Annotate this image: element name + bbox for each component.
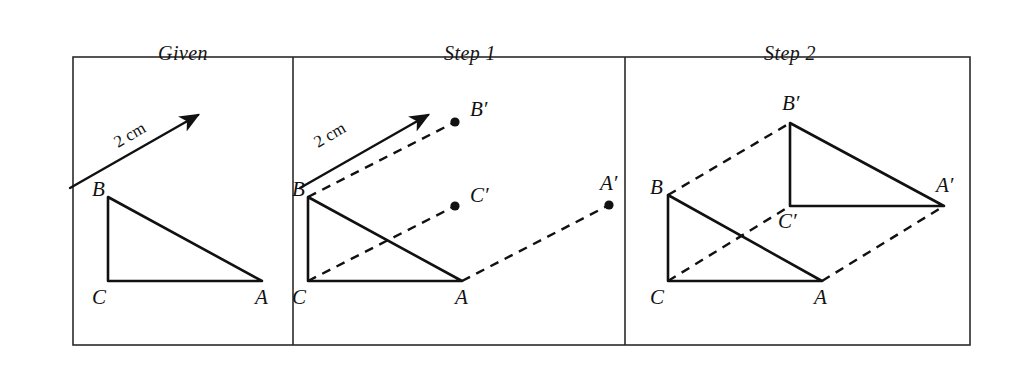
- panel-title-step1: Step 1: [444, 42, 496, 65]
- frame-rect: [73, 57, 970, 345]
- label-A-prime-step2: A′: [934, 173, 954, 197]
- source-triangle-step1: [308, 197, 462, 281]
- label-B-step2: B: [650, 175, 663, 199]
- translation-dash-C-prime-step2: [668, 206, 790, 281]
- point-B-prime-step1: [450, 117, 459, 126]
- label-A-given: A: [253, 285, 268, 309]
- label-B-prime-step2: B′: [782, 91, 800, 115]
- translation-dash-A-prime-step2: [822, 206, 944, 281]
- label-A-prime-step1: A′: [598, 171, 618, 195]
- figure-frame: [73, 57, 970, 345]
- panel-title-given: Given: [158, 42, 208, 65]
- label-C-prime-step2: C′: [778, 209, 797, 233]
- image-triangle-step2: [790, 123, 944, 206]
- point-label-group: 2 cmBCA2 cmB′C′A′BCAB′C′A′BCA: [92, 91, 954, 309]
- label-B-given: B: [92, 177, 105, 201]
- geometry-group: [70, 115, 944, 281]
- point-A-prime-step1: [604, 200, 613, 209]
- label-B-step1: B: [292, 177, 305, 201]
- translation-figure: Given Step 1 Step 2 2 cmBCA2 cmB′C′A′BCA…: [0, 0, 1016, 379]
- translation-dash-C-prime-step1: [308, 206, 455, 281]
- label-A-step2: A: [812, 285, 827, 309]
- label-C-step2: C: [650, 285, 665, 309]
- label-C-step1: C: [292, 285, 307, 309]
- panel-title-step2: Step 2: [764, 42, 816, 65]
- translation-dash-A-prime-step1: [462, 205, 609, 281]
- diagram-canvas: 2 cmBCA2 cmB′C′A′BCAB′C′A′BCA: [0, 0, 1016, 379]
- label-C-given: C: [92, 285, 107, 309]
- label-A-step1: A: [453, 285, 468, 309]
- source-triangle-step2: [668, 195, 822, 281]
- label-B-prime-step1: B′: [470, 97, 488, 121]
- translation-dash-B-prime-step2: [668, 123, 790, 195]
- source-triangle-given: [108, 197, 262, 281]
- vector-length-label-step1: 2 cm: [311, 118, 350, 151]
- label-C-prime-step1: C′: [470, 183, 489, 207]
- point-C-prime-step1: [450, 201, 459, 210]
